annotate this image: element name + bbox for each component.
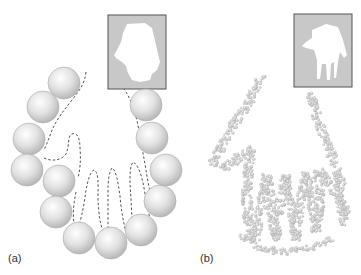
panel-a-label: (a) (8, 252, 21, 264)
panel-b (208, 14, 352, 256)
large-spheres (11, 67, 182, 259)
small-particles (208, 75, 350, 256)
panel-b-inset (294, 14, 352, 87)
figure: (a) (b) (0, 0, 361, 275)
panel-a-inset (108, 15, 166, 89)
panel-b-label: (b) (200, 252, 213, 264)
panel-a (11, 15, 182, 259)
